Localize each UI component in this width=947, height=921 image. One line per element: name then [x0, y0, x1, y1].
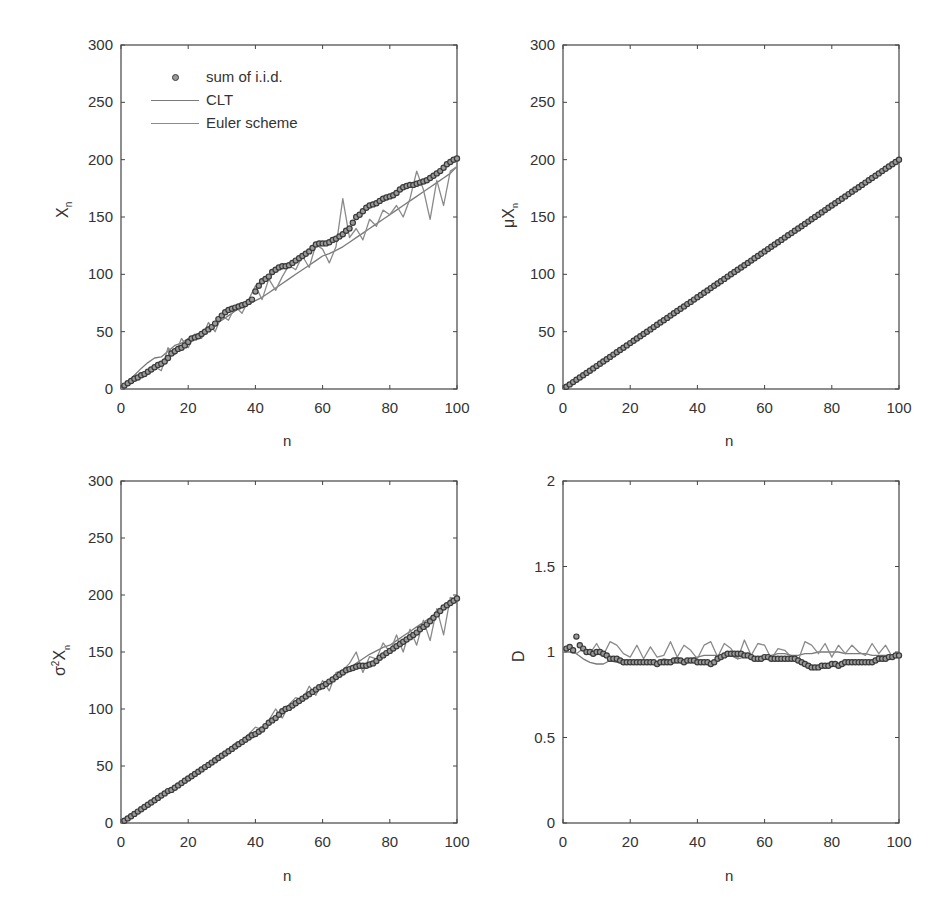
- circle-marker-icon: [172, 74, 179, 81]
- ylabel-d: D: [510, 650, 528, 662]
- legend-label: CLT: [206, 91, 233, 108]
- y-tick-label: 2: [547, 472, 555, 489]
- x-tick-label: 100: [886, 833, 911, 850]
- x-tick-label: 40: [689, 833, 706, 850]
- x-tick-label: 60: [756, 833, 773, 850]
- panel-d: 02040608010000.511.52 D n: [0, 0, 947, 921]
- x-tick-label: 80: [823, 833, 840, 850]
- x-tick-label: 20: [622, 833, 639, 850]
- legend-label: sum of i.i.d.: [206, 68, 283, 85]
- legend-entry-euler: Euler scheme: [148, 114, 318, 134]
- plot-d: 02040608010000.511.52: [0, 0, 947, 921]
- y-tick-label: 1.5: [534, 558, 555, 575]
- legend-label: Euler scheme: [206, 114, 298, 131]
- y-tick-label: 0: [547, 814, 555, 831]
- legend: sum of i.i.d. CLT Euler scheme: [148, 68, 308, 138]
- legend-entry-sum-iid: sum of i.i.d.: [148, 68, 318, 88]
- x-tick-label: 0: [559, 833, 567, 850]
- y-tick-label: 1: [547, 643, 555, 660]
- xlabel-d: n: [725, 867, 733, 884]
- series-sum-of-iid-markers: [564, 634, 902, 670]
- line-marker-icon: [151, 100, 199, 101]
- y-tick-label: 0.5: [534, 729, 555, 746]
- line-marker-icon: [151, 123, 199, 124]
- legend-entry-clt: CLT: [148, 91, 318, 111]
